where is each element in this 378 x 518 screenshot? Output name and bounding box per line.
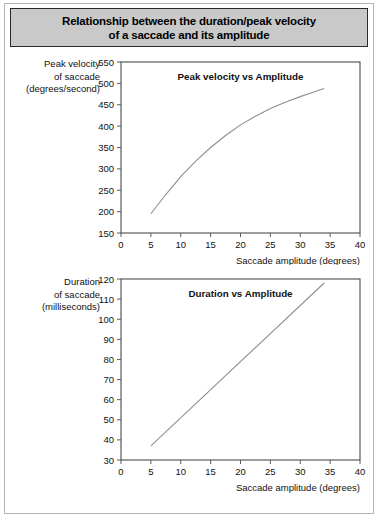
chart2-y-tick-label: 120 bbox=[98, 274, 114, 285]
chart1-x-tick-label: 0 bbox=[118, 239, 123, 250]
chart1-plot: 1502002503003504004505005500510152025303… bbox=[0, 50, 378, 265]
chart2-y-tick-label: 100 bbox=[98, 314, 114, 325]
chart1-x-tick-label: 15 bbox=[205, 239, 216, 250]
chart1-frame bbox=[121, 62, 360, 233]
chart1-x-tick-label: 5 bbox=[148, 239, 153, 250]
chart2-y-tick-label: 80 bbox=[103, 354, 114, 365]
figure-title: Relationship between the duration/peak v… bbox=[56, 14, 322, 42]
chart-panel-peak-velocity: Peak velocity of saccade (degrees/second… bbox=[0, 50, 378, 265]
chart2-frame bbox=[121, 279, 360, 460]
chart1-x-tick-label: 30 bbox=[295, 239, 306, 250]
chart2-y-tick-label: 40 bbox=[103, 434, 114, 445]
chart1-y-tick-label: 300 bbox=[98, 163, 114, 174]
chart1-x-tick-label: 10 bbox=[175, 239, 186, 250]
figure-container: Relationship between the duration/peak v… bbox=[0, 0, 378, 518]
chart2-x-tick-label: 40 bbox=[355, 466, 366, 477]
chart2-y-tick-label: 60 bbox=[103, 394, 114, 405]
chart1-x-tick-label: 35 bbox=[325, 239, 336, 250]
chart2-x-tick-label: 0 bbox=[118, 466, 123, 477]
chart1-y-tick-label: 250 bbox=[98, 185, 114, 196]
chart2-x-tick-label: 20 bbox=[235, 466, 246, 477]
chart1-title: Peak velocity vs Amplitude bbox=[178, 71, 305, 82]
chart1-x-tick-label: 20 bbox=[235, 239, 246, 250]
chart2-x-tick-label: 25 bbox=[265, 466, 276, 477]
chart1-y-tick-label: 350 bbox=[98, 142, 114, 153]
figure-title-bar: Relationship between the duration/peak v… bbox=[10, 8, 368, 47]
chart1-y-tick-label: 500 bbox=[98, 78, 114, 89]
chart1-x-axis-title: Saccade amplitude (degrees) bbox=[236, 255, 360, 265]
figure-title-line-1: Relationship between the duration/peak v… bbox=[62, 15, 316, 27]
chart2-y-tick-label: 110 bbox=[99, 294, 114, 305]
chart2-x-tick-label: 15 bbox=[205, 466, 216, 477]
chart2-y-tick-label: 50 bbox=[103, 414, 114, 425]
chart1-y-tick-label: 400 bbox=[98, 121, 114, 132]
chart1-y-tick-label: 200 bbox=[98, 206, 114, 217]
chart2-x-tick-label: 10 bbox=[175, 466, 186, 477]
chart2-y-tick-label: 70 bbox=[103, 374, 114, 385]
figure-title-line-2: of a saccade and its amplitude bbox=[109, 29, 270, 41]
chart2-x-axis-title: Saccade amplitude (degrees) bbox=[236, 482, 360, 493]
chart2-y-tick-label: 30 bbox=[103, 455, 114, 466]
chart2-x-tick-label: 5 bbox=[148, 466, 153, 477]
chart2-x-tick-label: 35 bbox=[325, 466, 336, 477]
chart1-x-tick-label: 25 bbox=[265, 239, 276, 250]
chart2-y-tick-label: 90 bbox=[103, 334, 114, 345]
chart2-x-tick-label: 30 bbox=[295, 466, 306, 477]
chart1-y-tick-label: 450 bbox=[98, 99, 114, 110]
chart-panel-duration: Duration of saccade (milliseconds) 30405… bbox=[0, 268, 378, 513]
chart2-plot: 304050607080901001101200510152025303540D… bbox=[0, 268, 378, 513]
chart1-x-tick-label: 40 bbox=[355, 239, 366, 250]
chart1-y-tick-label: 550 bbox=[98, 57, 114, 68]
chart1-y-tick-label: 150 bbox=[98, 228, 114, 239]
chart2-title: Duration vs Amplitude bbox=[188, 288, 293, 299]
